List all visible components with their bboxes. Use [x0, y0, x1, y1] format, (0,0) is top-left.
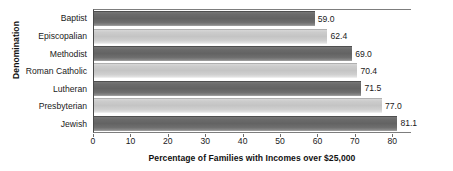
x-tick-label: 40	[238, 137, 248, 146]
category-label: Jewish	[16, 115, 90, 133]
bar-value-label: 69.0	[355, 49, 372, 58]
bar: 70.4	[94, 63, 357, 78]
bar-row: 70.4	[94, 62, 411, 79]
x-tick-label: 80	[388, 137, 398, 146]
bar: 69.0	[94, 46, 352, 61]
bars-container: 59.062.469.070.471.577.081.1	[94, 10, 411, 132]
category-label: Baptist	[16, 10, 90, 28]
bar-row: 77.0	[94, 97, 411, 114]
x-tick-label: 10	[126, 137, 136, 146]
bar-row: 59.0	[94, 10, 411, 27]
category-label: Roman Catholic	[16, 63, 90, 81]
category-label: Episcopalian	[16, 28, 90, 46]
x-tick-label: 20	[163, 137, 173, 146]
plot-area: 59.062.469.070.471.577.081.1	[93, 9, 411, 133]
bar: 77.0	[94, 98, 382, 113]
x-axis-title: Percentage of Families with Incomes over…	[93, 153, 411, 163]
category-label: Methodist	[16, 45, 90, 63]
bar-value-label: 62.4	[330, 32, 347, 41]
bar: 71.5	[94, 81, 361, 96]
x-axis-ticks: 01020304050607080	[93, 134, 411, 146]
x-tick-label: 0	[91, 137, 96, 146]
bar-row: 71.5	[94, 80, 411, 97]
bar-value-label: 81.1	[400, 119, 417, 128]
category-label: Presbyterian	[16, 98, 90, 116]
category-label: Lutheran	[16, 80, 90, 98]
bar-chart: Denomination BaptistEpiscopalianMethodis…	[0, 0, 453, 171]
bar: 81.1	[94, 116, 397, 131]
bar-row: 62.4	[94, 27, 411, 44]
x-tick-label: 50	[275, 137, 285, 146]
bar-value-label: 71.5	[364, 84, 381, 93]
x-tick-label: 70	[350, 137, 360, 146]
bar: 62.4	[94, 29, 327, 44]
bar-value-label: 77.0	[385, 102, 402, 111]
x-tick-label: 30	[200, 137, 210, 146]
bar-value-label: 70.4	[360, 67, 377, 76]
y-axis-category-labels: BaptistEpiscopalianMethodistRoman Cathol…	[16, 10, 90, 133]
bar-value-label: 59.0	[318, 14, 335, 23]
x-tick-label: 60	[313, 137, 323, 146]
bar-row: 81.1	[94, 115, 411, 132]
bar-row: 69.0	[94, 45, 411, 62]
bar: 59.0	[94, 11, 315, 26]
